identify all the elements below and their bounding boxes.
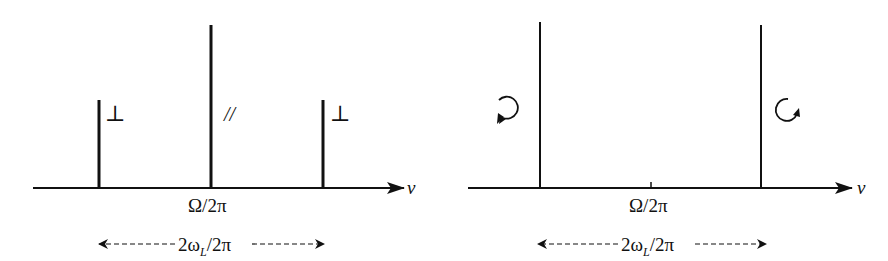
left-center-frequency-label: Ω/2π: [188, 196, 227, 215]
span-label-subscript: L: [643, 245, 650, 259]
span-label-subscript: L: [200, 245, 207, 259]
counterclockwise-circular-icon: [497, 97, 518, 124]
left-perpendicular-label-low: ⊥: [105, 103, 126, 125]
left-parallel-label: //: [224, 104, 235, 124]
span-label-suffix: /2π: [207, 234, 231, 255]
clockwise-circular-icon: [776, 99, 800, 121]
diagram-canvas: [0, 0, 888, 261]
span-label-prefix: 2ω: [621, 234, 643, 255]
span-label-suffix: /2π: [650, 234, 674, 255]
right-axis-label: v: [857, 178, 865, 197]
left-axis-label: v: [407, 178, 415, 197]
right-center-frequency-label: Ω/2π: [629, 196, 668, 215]
right-span-label: 2ωL/2π: [621, 235, 674, 258]
span-label-prefix: 2ω: [178, 234, 200, 255]
left-perpendicular-label-high: ⊥: [330, 103, 351, 125]
left-span-label: 2ωL/2π: [178, 235, 231, 258]
